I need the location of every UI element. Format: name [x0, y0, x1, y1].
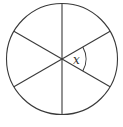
- circle-sector-diagram: x: [0, 0, 123, 127]
- angle-arc: [83, 47, 86, 71]
- angle-label: x: [73, 53, 80, 67]
